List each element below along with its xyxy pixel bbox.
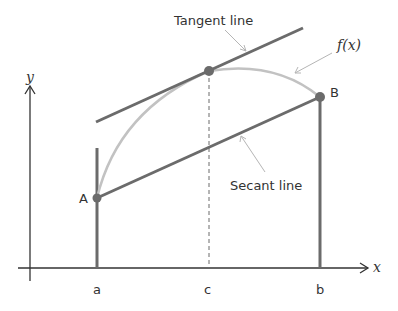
function-label: f(x) <box>336 37 361 53</box>
tangent-pointer <box>225 30 246 51</box>
tick-label-c: c <box>204 282 211 297</box>
tick-label-a: a <box>93 282 101 297</box>
point-c <box>204 66 214 76</box>
secant-line-label: Secant line <box>230 178 302 193</box>
tick-label-b: b <box>316 282 324 297</box>
point-a <box>93 194 102 203</box>
point-label-b: B <box>330 85 339 100</box>
point-label-a: A <box>79 191 88 206</box>
secant-pointer <box>240 136 265 172</box>
x-axis-label: x <box>373 259 381 275</box>
y-axis-label: y <box>25 69 35 85</box>
function-pointer <box>295 53 332 73</box>
point-b <box>315 92 325 102</box>
mvt-diagram: y x a c b A B Tangent line Secant line f… <box>0 0 398 311</box>
tangent-line <box>96 28 303 122</box>
tangent-line-label: Tangent line <box>173 13 253 28</box>
